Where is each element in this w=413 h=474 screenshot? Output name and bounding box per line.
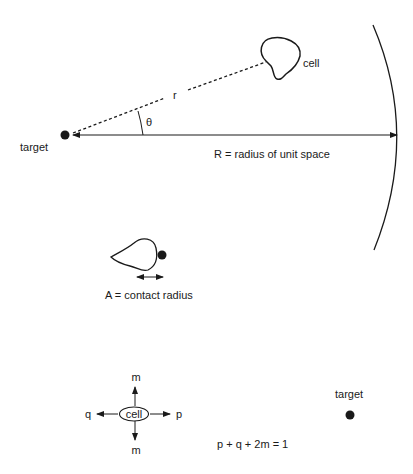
radius-label: R = radius of unit space bbox=[214, 148, 330, 160]
probability-equation: p + q + 2m = 1 bbox=[217, 438, 288, 450]
cell-shape bbox=[261, 38, 300, 80]
contact-radius-panel: A = contact radius bbox=[105, 239, 193, 301]
left-label: q bbox=[85, 408, 91, 420]
distance-line-segment-2 bbox=[188, 62, 266, 90]
contact-target-dot bbox=[158, 251, 167, 260]
down-label: m bbox=[131, 444, 140, 456]
distance-label: r bbox=[173, 89, 177, 101]
cell-label: cell bbox=[303, 57, 320, 69]
target-label: target bbox=[20, 141, 48, 153]
cell-migration-diagram: target R = radius of unit space r θ cell… bbox=[0, 0, 413, 474]
diagram-svg: target R = radius of unit space r θ cell… bbox=[0, 0, 413, 474]
right-label: p bbox=[176, 408, 182, 420]
angle-arc bbox=[138, 111, 143, 135]
angle-label: θ bbox=[146, 116, 152, 128]
target-dot bbox=[61, 131, 70, 140]
contact-radius-label: A = contact radius bbox=[105, 289, 193, 301]
movement-cell-label: cell bbox=[126, 408, 143, 420]
movement-probability-panel: cell m m q p p + q + 2m = 1 target bbox=[85, 371, 363, 456]
contact-cell-shape bbox=[111, 239, 157, 271]
unit-space-boundary-arc bbox=[373, 25, 397, 250]
unit-space-panel: target R = radius of unit space r θ cell bbox=[20, 25, 397, 250]
up-label: m bbox=[131, 371, 140, 383]
distant-target-dot bbox=[346, 411, 355, 420]
distant-target-label: target bbox=[335, 388, 363, 400]
